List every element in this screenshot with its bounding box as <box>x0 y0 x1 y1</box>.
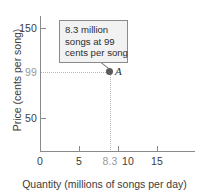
x-tick-mark-5 <box>79 146 80 151</box>
x-tick-label-10: 10 <box>119 155 137 167</box>
data-point-a <box>106 68 113 75</box>
data-point-a-label: A <box>115 65 122 77</box>
y-axis-title: Price (cents per song) <box>11 17 23 143</box>
callout-line-3: cents per song <box>65 47 123 59</box>
price-quantity-scatter-chart: 150 99 50 0 5 8.3 10 15 Price (cents per… <box>0 0 209 196</box>
y-tick-mark-50 <box>41 118 46 119</box>
callout-line-2: songs at 99 <box>65 36 123 48</box>
x-tick-mark-15 <box>157 146 158 151</box>
vertical-guide-line-8-3 <box>110 72 111 150</box>
x-tick-label-5: 5 <box>70 155 88 167</box>
callout-annotation: 8.3 million songs at 99 cents per song <box>59 20 128 63</box>
x-tick-mark-10 <box>118 146 119 151</box>
horizontal-guide-line-99 <box>41 72 110 73</box>
x-tick-label-15: 15 <box>148 155 166 167</box>
x-axis-line <box>40 151 195 152</box>
y-tick-mark-150 <box>41 28 46 29</box>
x-axis-title: Quantity (millions of songs per day) <box>0 178 209 190</box>
y-axis-line <box>40 16 41 152</box>
x-tick-label-0: 0 <box>31 155 49 167</box>
callout-line-1: 8.3 million <box>65 24 123 36</box>
